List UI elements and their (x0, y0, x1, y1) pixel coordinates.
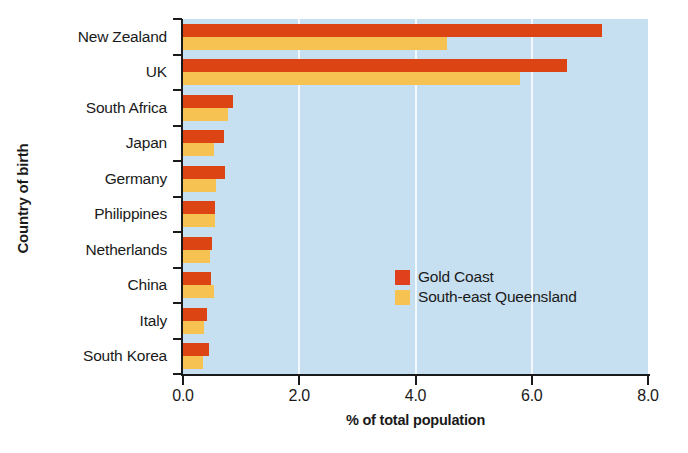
bar (183, 285, 214, 298)
bar-group (183, 232, 648, 268)
y-axis-label-south-korea: South Korea (20, 339, 175, 375)
y-tick (173, 18, 182, 20)
legend-swatch-south-east-queensland (395, 290, 410, 305)
bar (183, 214, 215, 227)
x-tick-label: 0.0 (153, 387, 213, 405)
bar (183, 321, 204, 334)
bar (183, 166, 225, 179)
bar-group (183, 126, 648, 162)
bar-group (183, 19, 648, 55)
bar (183, 308, 207, 321)
x-tick-label: 4.0 (386, 387, 446, 405)
bar-group (183, 339, 648, 375)
x-axis-title: % of total population (183, 412, 648, 428)
bar (183, 356, 203, 369)
y-axis-line (181, 19, 183, 376)
y-axis-label-uk: UK (20, 55, 175, 91)
x-tick-label: 8.0 (618, 387, 678, 405)
bar (183, 143, 214, 156)
y-tick (173, 54, 182, 56)
bar-chart-figure: Country of birth New Zealand UK South Af… (0, 0, 688, 453)
y-tick (173, 302, 182, 304)
bar (183, 179, 216, 192)
bar (183, 72, 520, 85)
x-tick (531, 376, 533, 385)
x-tick-label: 2.0 (269, 387, 329, 405)
bars-layer (183, 19, 648, 374)
plot-area (183, 19, 648, 374)
y-tick (173, 267, 182, 269)
y-axis-label-netherlands: Netherlands (20, 232, 175, 268)
x-tick-label: 6.0 (502, 387, 562, 405)
bar-group (183, 161, 648, 197)
bar-group (183, 55, 648, 91)
bar (183, 95, 233, 108)
y-axis-label-china: China (20, 268, 175, 304)
y-tick (173, 231, 182, 233)
y-axis-label-japan: Japan (20, 126, 175, 162)
bar (183, 237, 212, 250)
y-tick (173, 373, 182, 375)
legend-label-south-east-queensland: South-east Queensland (418, 288, 577, 306)
y-axis-category-labels: New Zealand UK South Africa Japan German… (20, 19, 175, 374)
bar-group (183, 303, 648, 339)
chart-legend: Gold Coast South-east Queensland (395, 268, 577, 306)
bar (183, 130, 224, 143)
bar-group (183, 90, 648, 126)
bar (183, 59, 567, 72)
legend-item-south-east-queensland: South-east Queensland (395, 288, 577, 306)
bar (183, 250, 210, 263)
x-tick (298, 376, 300, 385)
bar (183, 272, 211, 285)
bar (183, 24, 602, 37)
x-tick (182, 376, 184, 385)
y-tick (173, 338, 182, 340)
y-tick (173, 196, 182, 198)
y-tick (173, 89, 182, 91)
legend-swatch-gold-coast (395, 270, 410, 285)
y-tick (173, 160, 182, 162)
y-axis-label-philippines: Philippines (20, 197, 175, 233)
legend-label-gold-coast: Gold Coast (418, 268, 494, 286)
legend-item-gold-coast: Gold Coast (395, 268, 577, 286)
bar (183, 343, 209, 356)
bar (183, 201, 215, 214)
x-tick (647, 376, 649, 385)
y-axis-label-new-zealand: New Zealand (20, 19, 175, 55)
bar (183, 37, 447, 50)
y-axis-label-germany: Germany (20, 161, 175, 197)
bar-group (183, 197, 648, 233)
y-axis-label-italy: Italy (20, 303, 175, 339)
y-tick (173, 125, 182, 127)
y-axis-label-south-africa: South Africa (20, 90, 175, 126)
bar (183, 108, 228, 121)
x-tick (415, 376, 417, 385)
